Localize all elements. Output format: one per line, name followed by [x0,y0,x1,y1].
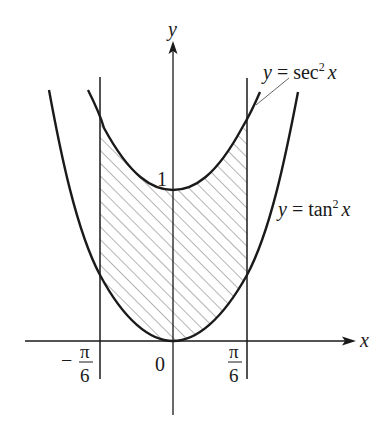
x-axis-label: x [359,329,369,351]
origin-label: 0 [155,353,165,375]
svg-text:π: π [229,341,239,362]
tan2-label: y = tan2x [276,197,351,221]
y-axis-label: y [166,18,177,41]
svg-text:6: 6 [229,365,239,386]
svg-text:π: π [80,341,90,362]
svg-text:−: − [61,349,72,371]
graph-figure: y x 1 0 − π 6 π 6 y = sec2x y = tan2x [0,0,390,431]
right-bound-label: π 6 [228,341,242,386]
y-one-label: 1 [157,168,167,190]
sec2-label: y = sec2x [261,60,337,84]
left-bound-label: − π 6 [61,341,93,386]
svg-text:6: 6 [80,365,90,386]
